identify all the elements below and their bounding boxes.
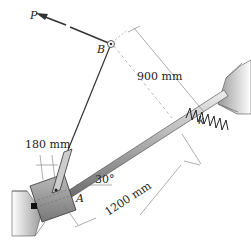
label-180mm: 180 mm [25, 138, 71, 151]
label-900mm: 900 mm [137, 70, 183, 83]
right-wall-support [218, 60, 251, 114]
label-A: A [75, 192, 84, 205]
label-B: B [96, 43, 105, 56]
pulley-B [108, 41, 115, 48]
label-30deg: 30° [95, 173, 115, 186]
dimension-180 [36, 155, 58, 180]
collar-pin [31, 203, 37, 209]
label-P: P [29, 9, 38, 22]
label-k: k [198, 114, 205, 127]
dimension-900 [128, 26, 204, 112]
mechanism-diagram: P B A k 900 mm 180 mm 30° 1200 mm [0, 0, 251, 242]
dashed-arc [115, 30, 128, 40]
force-arrow-P [36, 13, 66, 25]
cable-A-B [68, 44, 111, 150]
cable-B-P [70, 27, 111, 44]
